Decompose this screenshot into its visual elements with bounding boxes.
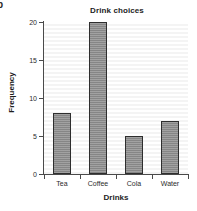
x-axis-title: Drinks	[44, 193, 188, 202]
bar-tea	[53, 113, 72, 174]
bar-cola	[125, 136, 144, 174]
x-axis-tick-label: Cola	[116, 180, 152, 188]
y-axis-tick-label: 15	[20, 57, 37, 64]
x-axis-tick	[116, 175, 117, 179]
bar-coffee	[89, 22, 108, 174]
y-axis-title: Frequency	[7, 53, 16, 133]
bar-water	[161, 121, 180, 174]
x-axis-tick	[188, 175, 189, 179]
figure-caption-label: b	[0, 0, 6, 10]
chart-title: Drink choices	[44, 6, 190, 15]
x-axis-tick	[152, 175, 153, 179]
y-axis-tick-label: 10	[20, 95, 37, 102]
x-axis-tick-label: Water	[152, 180, 188, 188]
x-axis-tick	[44, 175, 45, 179]
plot-area	[44, 22, 188, 174]
x-axis-tick-label: Coffee	[80, 180, 116, 188]
x-axis-tick	[80, 175, 81, 179]
y-axis-tick-label: 20	[20, 19, 37, 26]
y-axis-tick-label: 0	[20, 171, 37, 178]
y-axis-tick-label: 5	[20, 133, 37, 140]
x-axis-tick-label: Tea	[44, 180, 80, 188]
bar-chart-figure: b Drink choices 05101520 TeaCoffeeColaWa…	[0, 0, 197, 211]
